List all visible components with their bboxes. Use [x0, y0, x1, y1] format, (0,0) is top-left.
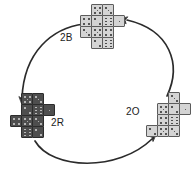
die-pip: [163, 131, 165, 133]
die-pip: [110, 18, 112, 20]
die-pip: [119, 21, 121, 23]
die: [102, 37, 114, 49]
die-pip: [110, 34, 112, 36]
die-pip: [110, 46, 112, 48]
die-pip: [160, 128, 162, 130]
arrow-2O-to-2B: [127, 20, 173, 96]
die-pip: [24, 107, 26, 109]
die-pip: [165, 133, 167, 135]
die-pip: [165, 122, 167, 124]
die-pip: [38, 121, 40, 123]
arrow-2R-to-2O: [35, 139, 152, 163]
die-pip: [24, 135, 26, 137]
die-pip: [27, 99, 29, 101]
die-pip: [97, 10, 99, 12]
die-pip: [160, 111, 162, 113]
die-pip: [40, 123, 42, 125]
die-pip: [35, 107, 37, 109]
die-pip: [105, 29, 107, 31]
cluster-label-2R: 2R: [51, 118, 64, 128]
die-pip: [13, 118, 15, 120]
die-pip: [94, 29, 96, 31]
die-pip: [99, 12, 101, 14]
die-pip: [165, 106, 167, 108]
die-pip: [99, 7, 101, 9]
die-pip: [110, 21, 112, 23]
die-pip: [105, 43, 107, 45]
die-pip: [174, 98, 176, 100]
dice-cycle-diagram: 2B 2R 2O: [0, 0, 195, 181]
die-pip: [176, 120, 178, 122]
die-pip: [49, 110, 51, 112]
die-pip: [160, 106, 162, 108]
die-pip: [105, 34, 107, 36]
die-pip: [97, 32, 99, 34]
die-pip: [105, 40, 107, 42]
die-pip: [24, 132, 26, 134]
die-pip: [163, 109, 165, 111]
die-pip: [176, 100, 178, 102]
die-pip: [171, 106, 173, 108]
die-pip: [171, 95, 173, 97]
die-pip: [29, 135, 31, 137]
die-pip: [88, 23, 90, 25]
die-pip: [165, 117, 167, 119]
die-pip: [83, 18, 85, 20]
die-pip: [94, 12, 96, 14]
die: [168, 125, 180, 137]
die-pip: [94, 40, 96, 42]
die-pip: [94, 34, 96, 36]
die-pip: [24, 101, 26, 103]
die-pip: [149, 128, 151, 130]
die: [113, 15, 125, 27]
die-pip: [88, 34, 90, 36]
die-pip: [40, 107, 42, 109]
die-pip: [154, 133, 156, 135]
die-pip: [29, 118, 31, 120]
die-pip: [24, 123, 26, 125]
die-pip: [24, 96, 26, 98]
die: [179, 103, 191, 115]
die-pip: [40, 134, 42, 136]
die-pip: [29, 132, 31, 134]
die-pip: [24, 118, 26, 120]
die-pip: [94, 7, 96, 9]
die-pip: [165, 128, 167, 130]
die-pip: [105, 21, 107, 23]
die-pip: [13, 123, 15, 125]
die-pip: [99, 34, 101, 36]
die-pip: [29, 112, 31, 114]
cluster-label-2B: 2B: [60, 33, 73, 43]
die-pip: [110, 12, 112, 14]
die-pip: [35, 129, 37, 131]
die-pip: [176, 117, 178, 119]
arrow-2B-to-2R: [22, 24, 84, 98]
die-pip: [83, 29, 85, 31]
die-pip: [165, 111, 167, 113]
die: [32, 126, 44, 138]
die-pip: [18, 118, 20, 120]
die-pip: [40, 101, 42, 103]
die-pip: [174, 131, 176, 133]
die-pip: [160, 122, 162, 124]
die-pip: [99, 23, 101, 25]
die-pip: [35, 96, 37, 98]
die-pip: [35, 110, 37, 112]
die-pip: [86, 32, 88, 34]
die-pip: [38, 99, 40, 101]
die-pip: [35, 118, 37, 120]
die-pip: [94, 18, 96, 20]
die-pip: [105, 7, 107, 9]
die: [43, 104, 55, 116]
die-pip: [110, 29, 112, 31]
die-pip: [176, 111, 178, 113]
die-pip: [105, 46, 107, 48]
die-pip: [27, 121, 29, 123]
die-pip: [108, 10, 110, 12]
die-pip: [99, 29, 101, 31]
die-pip: [24, 129, 26, 131]
die-pip: [171, 120, 173, 122]
die-pip: [83, 23, 85, 25]
die-pip: [171, 117, 173, 119]
die-pip: [29, 101, 31, 103]
